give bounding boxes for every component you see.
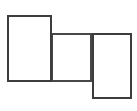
diagram-canvas [0,0,137,111]
rectangle-left[interactable] [7,15,52,82]
rectangle-middle[interactable] [51,33,92,82]
rectangle-right[interactable] [92,33,132,99]
